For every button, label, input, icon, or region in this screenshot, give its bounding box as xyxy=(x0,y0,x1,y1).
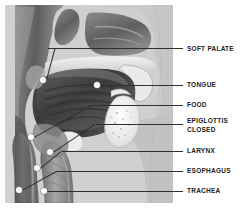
label-food: FOOD xyxy=(187,101,207,110)
leader-line-epiglottis xyxy=(96,124,183,125)
leader-line-tongue xyxy=(100,85,183,86)
anatomy-svg xyxy=(5,5,173,203)
marker-food xyxy=(28,134,34,140)
label-larynx: LARYNX xyxy=(187,147,215,156)
label-epiglottis-closed: EPIGLOTTIS CLOSED xyxy=(187,117,228,134)
anatomy-diagram-figure: SOFT PALATE TONGUE FOOD EPIGLOTTIS CLOSE… xyxy=(0,0,244,209)
label-esophagus: ESOPHAGUS xyxy=(187,167,231,176)
label-tongue: TONGUE xyxy=(187,81,216,90)
leader-line-trachea xyxy=(47,191,183,192)
head-cross-section-illustration xyxy=(5,5,173,203)
label-trachea: TRACHEA xyxy=(187,187,221,196)
marker-larynx xyxy=(34,165,40,171)
marker-esophagus xyxy=(16,187,22,193)
marker-soft-palate xyxy=(40,77,46,83)
leader-line-larynx xyxy=(62,151,183,152)
marker-tongue xyxy=(94,82,100,88)
label-soft-palate: SOFT PALATE xyxy=(187,45,234,54)
leader-line-soft-palate xyxy=(48,48,183,49)
leader-line-esophagus xyxy=(56,171,183,172)
marker-epiglottis xyxy=(47,149,53,155)
leader-line-food xyxy=(88,105,183,106)
marker-trachea xyxy=(41,188,47,194)
